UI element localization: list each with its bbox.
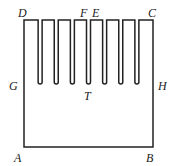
label-T: T [84, 89, 92, 103]
label-D: D [17, 6, 27, 20]
label-E: E [91, 6, 100, 20]
label-F: F [79, 6, 88, 20]
label-B: B [146, 151, 154, 165]
label-C: C [148, 6, 157, 20]
label-G: G [9, 79, 18, 93]
label-H: H [157, 79, 168, 93]
comb-rectangle-diagram: D F E C G H T A B [0, 0, 175, 166]
label-A: A [13, 151, 22, 165]
comb-outline [24, 20, 153, 147]
